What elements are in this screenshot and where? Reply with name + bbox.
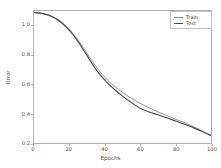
y-tick-mark bbox=[31, 114, 33, 115]
chart-legend: Train Test bbox=[170, 11, 212, 29]
legend-swatch-train bbox=[174, 17, 183, 18]
y-tick-mark bbox=[31, 84, 33, 85]
x-tick-label: 40 bbox=[97, 147, 113, 152]
chart-figure: Error 0.20.40.60.81.0 020406080100 Epoch… bbox=[0, 0, 221, 168]
y-tick-label: 0.6 bbox=[14, 82, 30, 87]
line-series-train bbox=[34, 12, 211, 135]
y-tick-mark bbox=[31, 25, 33, 26]
y-axis-label: Error bbox=[5, 70, 11, 84]
y-tick-mark bbox=[31, 55, 33, 56]
x-tick-mark bbox=[176, 144, 177, 146]
plot-area bbox=[33, 10, 212, 144]
line-series-test bbox=[34, 12, 211, 135]
x-tick-mark bbox=[105, 144, 106, 146]
x-tick-label: 20 bbox=[61, 147, 77, 152]
chart-lines bbox=[34, 11, 211, 143]
x-tick-label: 80 bbox=[168, 147, 184, 152]
y-tick-label: 1.0 bbox=[14, 22, 30, 27]
x-tick-label: 60 bbox=[132, 147, 148, 152]
legend-item: Test bbox=[174, 21, 208, 28]
x-tick-mark bbox=[33, 144, 34, 146]
x-axis-label: Epochs bbox=[0, 155, 221, 161]
y-tick-label: 0.8 bbox=[14, 52, 30, 57]
legend-label-test: Test bbox=[186, 21, 196, 26]
y-tick-label: 0.4 bbox=[14, 112, 30, 117]
legend-swatch-test bbox=[174, 23, 183, 24]
x-tick-label: 100 bbox=[204, 147, 220, 152]
x-tick-mark bbox=[212, 144, 213, 146]
x-tick-label: 0 bbox=[25, 147, 41, 152]
y-tick-label: 0.2 bbox=[14, 141, 30, 146]
legend-label-train: Train bbox=[186, 15, 198, 20]
x-tick-mark bbox=[69, 144, 70, 146]
x-tick-mark bbox=[140, 144, 141, 146]
